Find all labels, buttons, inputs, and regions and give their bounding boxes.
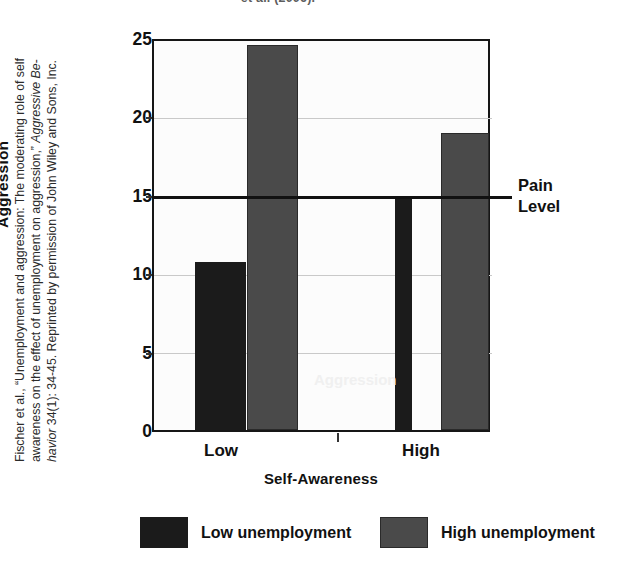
x-tick-label-high: High <box>366 441 476 461</box>
source-caption-line-1: Fischer et al., “Unemployment and aggres… <box>14 58 27 462</box>
chart-legend: Low unemployment High unemployment <box>140 517 610 551</box>
legend-item-high-unemployment: High unemployment <box>380 517 595 548</box>
plot-area: Aggression <box>152 39 412 432</box>
legend-swatch-high-unemployment <box>380 517 428 548</box>
x-tick-label-low: Low <box>166 441 276 461</box>
pain-level-label-line-1: Pain <box>518 175 560 196</box>
legend-item-low-unemployment: Low unemployment <box>140 517 351 548</box>
pain-level-label-line-2: Level <box>518 196 560 217</box>
source-caption-line-2: awareness on the effect of unemployment … <box>30 59 43 462</box>
source-caption-block: Fischer et al., “Unemployment and aggres… <box>0 0 72 578</box>
pain-level-annotation: Pain Level <box>518 175 560 217</box>
scan-ghost-text-1: Aggression <box>314 371 397 388</box>
legend-label-high-unemployment: High unemployment <box>441 524 595 542</box>
pain-level-reference-line <box>152 196 490 199</box>
source-caption-line-3: havior 34(1): 34-45. Reprinted by permis… <box>46 60 59 462</box>
bar-high-unemployment-low-awareness <box>247 45 298 430</box>
top-cropped-caption-fragment: et al. (2006). <box>178 0 378 5</box>
legend-swatch-low-unemployment <box>140 517 188 548</box>
plot-area-right-extension <box>412 39 490 432</box>
bar-low-unemployment-low-awareness <box>195 262 246 430</box>
gridline-20-right <box>412 118 490 119</box>
x-axis-center-tick <box>337 433 339 442</box>
legend-label-low-unemployment: Low unemployment <box>201 524 351 542</box>
y-axis-title: Aggression <box>0 141 12 228</box>
pain-level-reference-line-extension <box>490 196 512 199</box>
y-tick-label-0: 0 <box>112 421 152 442</box>
y-tick-label-25: 25 <box>112 29 152 50</box>
x-axis-title: Self-Awareness <box>152 470 490 487</box>
bar-high-unemployment-high-awareness <box>441 133 489 430</box>
y-axis: 25 20 15 10 5 0 <box>108 0 152 578</box>
